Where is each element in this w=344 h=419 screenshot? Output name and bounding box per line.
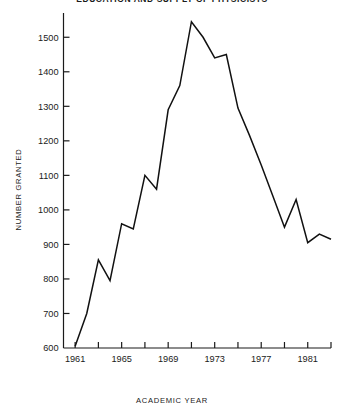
y-axis-tick-label: 600: [43, 343, 58, 353]
y-axis-tick-label: 1300: [38, 102, 58, 112]
figure-container: EDUCATION AND SUPPLY OF PHYSICISTS NUMBE…: [0, 0, 344, 419]
x-axis-tick-label: 1965: [111, 354, 131, 364]
x-axis: 196119651969197319771981: [64, 342, 332, 364]
x-axis-tick-label: 1961: [65, 354, 85, 364]
y-axis-tick-label: 700: [43, 309, 58, 319]
y-axis-tick-label: 1400: [38, 67, 58, 77]
y-axis-tick-label: 900: [43, 240, 58, 250]
line-chart: 600700800900100011001200130014001500 196…: [0, 0, 344, 419]
y-axis-tick-label: 1500: [38, 33, 58, 43]
data-line: [75, 22, 331, 347]
x-axis-tick-label: 1969: [158, 354, 178, 364]
y-axis-tick-label: 1200: [38, 136, 58, 146]
y-axis-tick-label: 1000: [38, 205, 58, 215]
y-axis-tick-label: 800: [43, 274, 58, 284]
data-series: [75, 22, 331, 347]
x-axis-tick-label: 1973: [204, 354, 224, 364]
y-axis: 600700800900100011001200130014001500: [38, 13, 69, 353]
x-axis-tick-label: 1981: [298, 354, 318, 364]
x-axis-tick-label: 1977: [251, 354, 271, 364]
y-axis-tick-label: 1100: [39, 171, 59, 181]
